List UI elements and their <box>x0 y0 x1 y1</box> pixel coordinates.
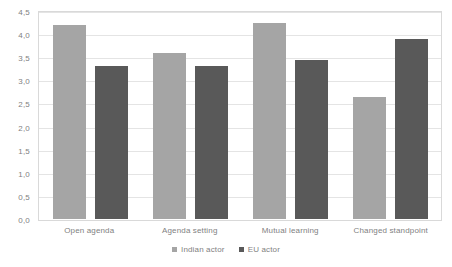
y-axis-tick-label: 2,5 <box>18 100 30 109</box>
legend-label: Indian actor <box>181 245 225 254</box>
legend-item[interactable]: EU actor <box>239 245 280 254</box>
bar-indian-actor[interactable] <box>253 23 286 219</box>
legend-item[interactable]: Indian actor <box>172 245 225 254</box>
bar-eu-actor[interactable] <box>95 66 128 219</box>
bar-eu-actor[interactable] <box>395 39 428 219</box>
y-axis-tick-label: 1,0 <box>18 169 30 178</box>
y-axis-tick-label: 0,5 <box>18 192 30 201</box>
bar-indian-actor[interactable] <box>153 53 186 219</box>
x-axis-tick-label: Mutual learning <box>240 226 341 235</box>
x-axis-tick-label: Open agenda <box>39 226 140 235</box>
legend-swatch-icon <box>172 247 177 252</box>
bar-group <box>240 13 340 219</box>
y-axis-tick-label: 4,5 <box>18 8 30 17</box>
legend-label: EU actor <box>248 245 280 254</box>
bar-group <box>340 13 440 219</box>
chart-legend: Indian actorEU actor <box>0 245 452 254</box>
y-axis-tick-label: 1,5 <box>18 146 30 155</box>
legend-swatch-icon <box>239 247 244 252</box>
y-axis-tick-label: 4,0 <box>18 31 30 40</box>
bar-eu-actor[interactable] <box>195 66 228 219</box>
y-axis: 4,54,03,53,02,52,01,51,00,50,0 <box>0 11 34 221</box>
gridline <box>39 220 441 221</box>
x-axis-tick-label: Agenda setting <box>140 226 241 235</box>
bar-eu-actor[interactable] <box>295 60 328 219</box>
bar-indian-actor[interactable] <box>53 25 86 219</box>
bar-groups <box>40 13 440 219</box>
x-axis: Open agendaAgenda settingMutual learning… <box>39 226 441 235</box>
y-axis-tick-label: 3,5 <box>18 54 30 63</box>
y-axis-tick-label: 2,0 <box>18 123 30 132</box>
y-axis-tick-label: 0,0 <box>18 216 30 225</box>
y-axis-tick-label: 3,0 <box>18 77 30 86</box>
bar-group <box>40 13 140 219</box>
x-axis-tick-label: Changed standpoint <box>341 226 442 235</box>
bar-chart: 4,54,03,53,02,52,01,51,00,50,0 Open agen… <box>0 0 452 267</box>
bar-indian-actor[interactable] <box>353 97 386 219</box>
bar-group <box>140 13 240 219</box>
plot-area <box>38 11 442 221</box>
